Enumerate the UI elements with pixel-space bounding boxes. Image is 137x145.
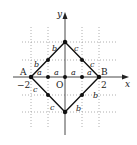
y-axis-label: y (56, 9, 63, 19)
segment-label-a: a (37, 68, 42, 77)
point-a-label: A (19, 67, 27, 77)
point-axis (80, 75, 84, 79)
segment-label-b: b (52, 44, 57, 53)
point-mid (46, 93, 50, 97)
segment-label-c: c (74, 44, 79, 53)
origin-label: O (56, 80, 63, 90)
point-mid (80, 58, 84, 62)
point-a (29, 75, 33, 79)
tick-two: 2 (101, 80, 107, 90)
segment-label-c: c (90, 60, 95, 69)
diagram: y x O A B −2 2 a a a a b b b b c c c c (0, 0, 137, 145)
x-axis-label: x (125, 79, 130, 89)
segment-label-a: a (54, 68, 59, 77)
point-axis (63, 75, 67, 79)
point-b-label: B (101, 67, 108, 77)
point-bottom (63, 110, 67, 114)
segment-label-a: a (71, 68, 76, 77)
segment-label-c: c (50, 103, 55, 112)
point-mid (46, 58, 50, 62)
segment-label-b: b (76, 104, 81, 113)
y-axis-arrow-icon (63, 12, 68, 19)
segment-label-b: b (93, 91, 98, 100)
segment-label-c: c (33, 85, 38, 94)
segment-label-a: a (87, 68, 92, 77)
point-top (63, 40, 67, 44)
point-mid (80, 93, 84, 97)
point-axis (46, 75, 50, 79)
tick-neg-two: −2 (17, 80, 30, 90)
segment-label-b: b (34, 60, 39, 69)
